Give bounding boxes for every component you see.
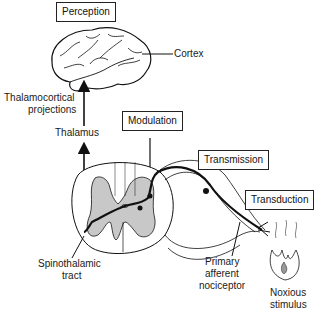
spinothalamic-leader-line	[72, 236, 84, 258]
drg-cell-body	[203, 188, 209, 194]
nociceptor-label-line2: afferent	[205, 268, 239, 280]
noxious-label-line1: Noxious	[270, 287, 306, 299]
nociceptor-label-line1: Primary	[205, 256, 239, 268]
noxious-label-line2: stimulus	[270, 299, 307, 311]
spinothalamic-label-line2: tract	[62, 270, 81, 282]
transmission-box: Transmission	[198, 150, 269, 170]
thalamocortical-label-line1: Thalamocortical	[4, 92, 75, 104]
transduction-box: Transduction	[245, 190, 314, 210]
cortex-label: Cortex	[174, 48, 203, 60]
nociceptor-label-line3: nociceptor	[199, 280, 245, 292]
brain-icon	[52, 28, 151, 91]
thalamocortical-label-line2: projections	[28, 104, 76, 116]
flame-icon	[270, 220, 299, 280]
spinothalamic-label-line1: Spinothalamic	[38, 258, 101, 270]
thalamus-label: Thalamus	[55, 127, 99, 139]
modulation-box: Modulation	[122, 111, 183, 131]
perception-box: Perception	[56, 2, 116, 22]
